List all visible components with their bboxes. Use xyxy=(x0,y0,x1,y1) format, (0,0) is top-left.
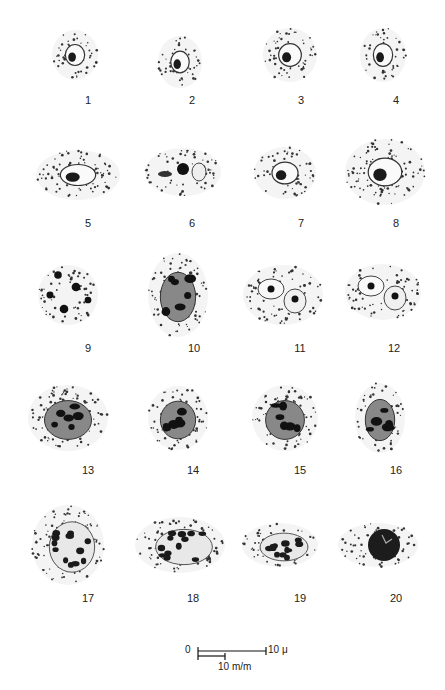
scale-mm-label: 10 m/m xyxy=(218,661,251,672)
scale-micron-label: 10 μ xyxy=(268,644,288,655)
scale-bar-lines xyxy=(0,0,445,690)
scale-zero-label: 0 xyxy=(185,644,191,655)
